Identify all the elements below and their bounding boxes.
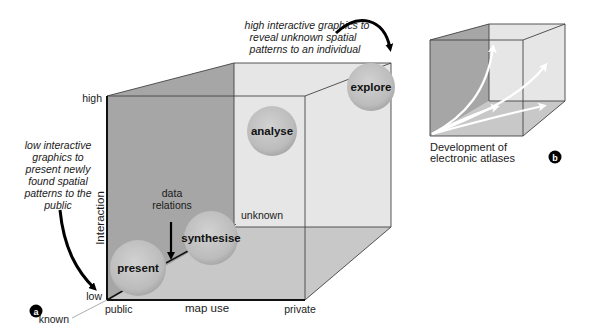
svg-text:public: public [43,199,72,211]
bubble-label: explore [351,81,392,93]
svg-text:found spatial: found spatial [28,175,88,187]
bubble-present: present [110,240,166,296]
y-low-label: low [86,290,102,302]
bubble-label: synthesise [181,232,240,244]
svg-text:present newly: present newly [25,163,92,175]
svg-text:graphics to: graphics to [32,151,84,163]
x-start-label: public [105,303,132,315]
y-axis-label: Interaction [94,191,106,245]
z-end-label: unknown [241,209,283,221]
panel-a-badge: a [30,305,43,318]
svg-text:patterns to an individual: patterns to an individual [249,43,362,55]
x-end-label: private [284,303,316,315]
panel-b-caption-2: electronic atlases [430,152,515,164]
bubble-explore: explore [347,63,395,111]
data-relations-label-2: relations [152,199,192,211]
map-use-cube-diagram: present synthesise analyse explore data … [0,0,589,331]
svg-text:high interactive graphics to: high interactive graphics to [245,19,370,31]
svg-text:reveal unknown spatial: reveal unknown spatial [250,31,357,43]
y-high-label: high [82,92,102,104]
z-axis-line [72,300,107,318]
x-axis-label: map use [185,302,229,314]
bubble-label: present [117,262,159,274]
bubble-label: analyse [251,125,293,137]
svg-text:b: b [552,153,558,163]
svg-text:patterns to the: patterns to the [23,187,91,199]
cube-b: Development of electronic atlases b [430,24,565,164]
panel-b-badge: b [549,151,562,164]
curved-arrow-icon-left [60,210,94,288]
annotation-low-interactive: low interactive graphics to present newl… [23,139,91,211]
data-relations-label-1: data [162,187,183,199]
bubble-analyse: analyse [247,106,297,156]
svg-text:low interactive: low interactive [25,139,92,151]
cube-a: present synthesise analyse explore data … [23,19,395,325]
z-start-label: known [39,313,70,325]
